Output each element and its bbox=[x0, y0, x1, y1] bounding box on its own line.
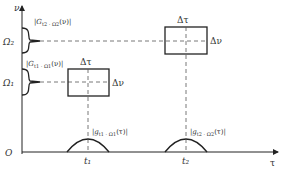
envelope-t2-label: |gt2 · Ω2(τ)| bbox=[190, 128, 226, 137]
box2-dtau-label: Δτ bbox=[177, 15, 188, 25]
box1-dtau-label: Δτ bbox=[80, 57, 91, 67]
spectrum-omega1-shape bbox=[22, 69, 40, 95]
tf-box-1 bbox=[68, 69, 109, 96]
t2-label: t₂ bbox=[182, 156, 190, 166]
time-frequency-diagram: ν τ O Ω₂ Ω₁ |Gt2 · Ω2(ν)| |Gt1 · Ω1(ν)| … bbox=[0, 0, 285, 174]
envelope-t1-label: |gt1 · Ω1(τ)| bbox=[92, 128, 128, 137]
spectrum-omega2-shape bbox=[22, 28, 40, 53]
t1-label: t₁ bbox=[84, 156, 91, 166]
diagram-canvas: ν τ O Ω₂ Ω₁ |Gt2 · Ω2(ν)| |Gt1 · Ω1(ν)| … bbox=[0, 0, 285, 174]
x-axis-label: τ bbox=[270, 158, 275, 168]
omega2-label: Ω₂ bbox=[2, 37, 14, 47]
origin-label: O bbox=[5, 148, 13, 158]
box2-dnu-label: Δν bbox=[210, 36, 222, 46]
box1-dnu-label: Δν bbox=[112, 78, 124, 88]
spectrum-omega2-label: |Gt2 · Ω2(ν)| bbox=[34, 18, 71, 27]
y-axis-label: ν bbox=[14, 3, 20, 13]
spectrum-omega1-label: |Gt1 · Ω1(ν)| bbox=[26, 60, 63, 69]
omega1-label: Ω₁ bbox=[2, 78, 14, 88]
